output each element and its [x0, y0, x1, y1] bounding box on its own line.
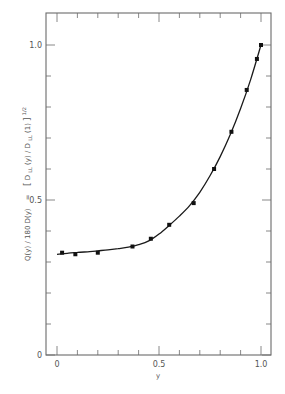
x-axis-label: y	[156, 372, 160, 380]
data-point-marker	[149, 237, 153, 241]
axis-tick-labels: 00.51.000.51.0	[29, 41, 267, 369]
data-point-marker	[192, 201, 196, 205]
data-point-marker	[229, 130, 233, 134]
y-label-num-sub: LL	[27, 167, 33, 173]
x-tick-label: 1.0	[255, 360, 268, 369]
y-label-bracket-close: ]	[22, 117, 32, 121]
data-point-marker	[255, 57, 259, 61]
y-axis-label: Q(y) / 180 D(y) = [ D LL (y) / D LL (1) …	[21, 107, 34, 261]
x-tick-label: 0.5	[153, 360, 166, 369]
y-tick-label: 1.0	[29, 41, 42, 50]
y-label-den: D	[24, 143, 32, 148]
axis-ticks	[46, 13, 271, 355]
y-label-num: D	[24, 175, 32, 180]
data-point-marker	[167, 223, 171, 227]
data-points	[60, 43, 263, 256]
y-label-eq: =	[24, 194, 32, 200]
data-point-marker	[130, 245, 134, 249]
y-tick-label: 0	[37, 351, 42, 360]
data-point-marker	[245, 88, 249, 92]
plot-frame	[46, 13, 271, 355]
y-label-bracket-open: [	[22, 183, 32, 187]
plot-border	[46, 13, 271, 355]
y-label-num-arg: (y) /	[24, 148, 32, 164]
x-tick-label: 0	[54, 360, 59, 369]
svg-text:Q(y) / 180 D(y) =: Q(y) / 180 D(y) = [ D LL (y) / D LL (1) …	[21, 107, 34, 261]
y-label-den-arg: (1)	[24, 123, 32, 133]
data-point-marker	[212, 167, 216, 171]
fitted-curve	[57, 45, 261, 254]
data-point-marker	[259, 43, 263, 47]
chart: 00.51.000.51.0 y Q(y) / 180 D(y) = [ D L…	[0, 0, 285, 394]
curve-path	[57, 45, 261, 254]
y-label-left: Q(y) / 180 D(y)	[24, 208, 32, 261]
data-point-marker	[96, 251, 100, 255]
y-label-exponent: 1/2	[21, 107, 27, 115]
data-point-marker	[73, 252, 77, 256]
data-point-marker	[60, 251, 64, 255]
y-label-den-sub: LL	[27, 135, 33, 141]
